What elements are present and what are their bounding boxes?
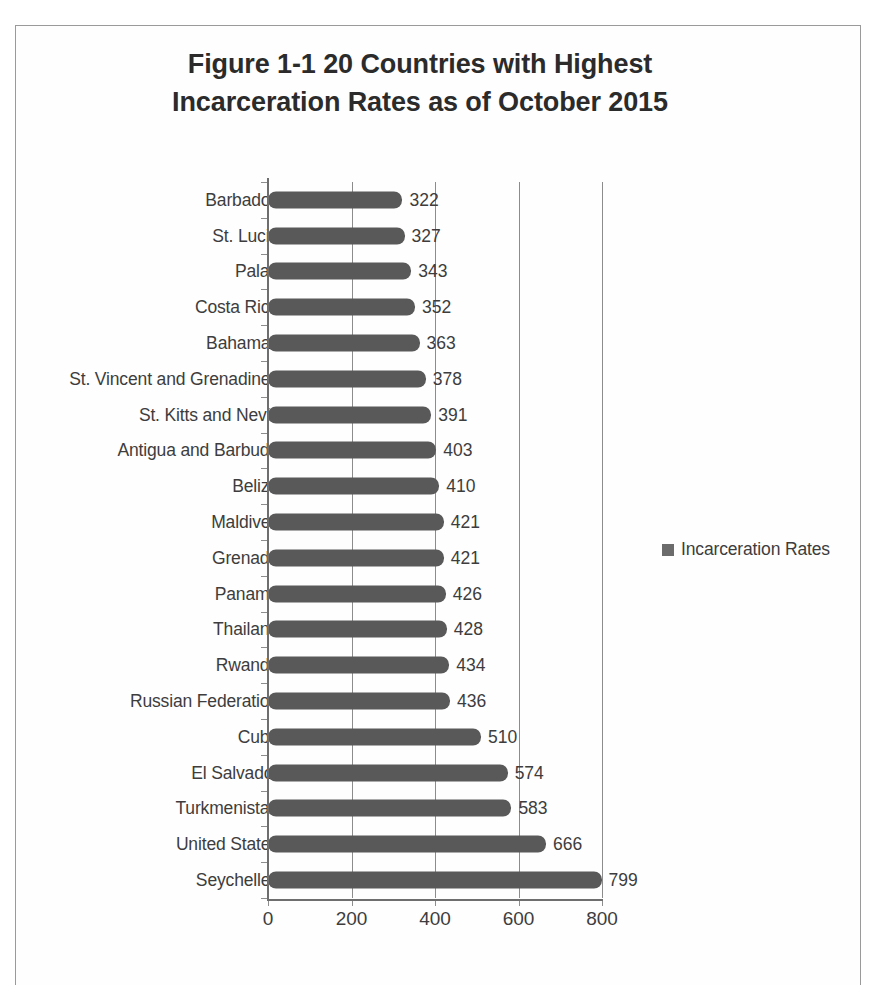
bar[interactable] xyxy=(268,191,402,208)
bar[interactable] xyxy=(268,514,444,531)
bar[interactable] xyxy=(268,621,447,638)
x-tick-400 xyxy=(435,900,436,906)
bar[interactable] xyxy=(268,299,415,316)
category-label: Turkmenistan xyxy=(175,798,279,819)
bar-row: United States666 xyxy=(0,826,877,862)
bar-row: El Salvador574 xyxy=(0,755,877,791)
x-tick-200 xyxy=(352,900,353,906)
y-tick xyxy=(261,755,267,756)
y-tick xyxy=(261,719,267,720)
y-tick xyxy=(261,540,267,541)
bar-row: Thailand428 xyxy=(0,612,877,648)
y-tick xyxy=(261,504,267,505)
y-tick xyxy=(261,576,267,577)
bar[interactable] xyxy=(268,335,420,352)
bar-row: Belize410 xyxy=(0,468,877,504)
bar-value-label: 436 xyxy=(457,691,486,712)
bar[interactable] xyxy=(268,370,426,387)
bar-value-label: 583 xyxy=(518,798,547,819)
bar-value-label: 403 xyxy=(443,440,472,461)
bar-value-label: 434 xyxy=(456,655,485,676)
bar-row: Seychelles799 xyxy=(0,862,877,898)
x-tick-label-800: 800 xyxy=(586,908,618,930)
bar-value-label: 426 xyxy=(453,583,482,604)
y-tick xyxy=(261,182,267,183)
bar-value-label: 352 xyxy=(422,297,451,318)
bar[interactable] xyxy=(268,693,450,710)
bar-row: St. Vincent and Grenadines378 xyxy=(0,361,877,397)
bar-row: Antigua and Barbuda403 xyxy=(0,433,877,469)
bar[interactable] xyxy=(268,227,405,244)
bar-row: Maldives421 xyxy=(0,504,877,540)
y-tick xyxy=(261,218,267,219)
y-tick xyxy=(261,468,267,469)
y-tick xyxy=(261,361,267,362)
bar-row: St. Lucia327 xyxy=(0,218,877,254)
y-tick xyxy=(261,862,267,863)
bar[interactable] xyxy=(268,657,449,674)
bar-value-label: 428 xyxy=(454,619,483,640)
legend-swatch-icon xyxy=(662,544,674,556)
bar-row: Turkmenistan583 xyxy=(0,791,877,827)
bar[interactable] xyxy=(268,764,508,781)
bar[interactable] xyxy=(268,872,602,889)
bar-value-label: 343 xyxy=(418,261,447,282)
bar-row: Rwanda434 xyxy=(0,647,877,683)
x-tick-600 xyxy=(519,900,520,906)
bar[interactable] xyxy=(268,549,444,566)
bar-value-label: 378 xyxy=(433,368,462,389)
bar[interactable] xyxy=(268,728,481,745)
x-tick-label-200: 200 xyxy=(336,908,368,930)
x-axis-line xyxy=(267,899,603,901)
bar-value-label: 327 xyxy=(412,225,441,246)
bar[interactable] xyxy=(268,442,436,459)
bar-value-label: 421 xyxy=(451,512,480,533)
bar[interactable] xyxy=(268,263,411,280)
y-tick xyxy=(261,826,267,827)
category-label: El Salvador xyxy=(191,762,279,783)
y-tick xyxy=(261,898,267,899)
y-tick xyxy=(261,289,267,290)
bar-value-label: 666 xyxy=(553,834,582,855)
bar[interactable] xyxy=(268,585,446,602)
bar-row: Palau343 xyxy=(0,254,877,290)
bar-value-label: 574 xyxy=(515,762,544,783)
bar-row: Costa Rica352 xyxy=(0,289,877,325)
bar-value-label: 799 xyxy=(609,870,638,891)
bar-row: St. Kitts and Nevis391 xyxy=(0,397,877,433)
category-label: St. Kitts and Nevis xyxy=(139,404,279,425)
bar-row: Bahamas363 xyxy=(0,325,877,361)
category-label: St. Vincent and Grenadines xyxy=(69,368,279,389)
chart-legend: Incarceration Rates xyxy=(662,539,830,560)
bar[interactable] xyxy=(268,800,511,817)
category-label: Antigua and Barbuda xyxy=(117,440,279,461)
y-tick xyxy=(261,433,267,434)
y-axis-line xyxy=(267,178,269,900)
y-tick xyxy=(261,683,267,684)
bar-value-label: 391 xyxy=(438,404,467,425)
bar-row: Barbados322 xyxy=(0,182,877,218)
bar-row: Russian Federation436 xyxy=(0,683,877,719)
y-tick xyxy=(261,254,267,255)
bar-value-label: 410 xyxy=(446,476,475,497)
bar-value-label: 510 xyxy=(488,726,517,747)
y-tick xyxy=(261,325,267,326)
bar-row: Cuba510 xyxy=(0,719,877,755)
x-tick-800 xyxy=(602,900,603,906)
category-label: Russian Federation xyxy=(130,691,279,712)
y-tick xyxy=(261,647,267,648)
y-tick xyxy=(261,791,267,792)
bar-row: Panama426 xyxy=(0,576,877,612)
x-tick-label-400: 400 xyxy=(419,908,451,930)
x-tick-label-600: 600 xyxy=(503,908,535,930)
bar[interactable] xyxy=(268,478,439,495)
category-label: United States xyxy=(176,834,279,855)
legend-label: Incarceration Rates xyxy=(681,539,830,560)
y-tick xyxy=(261,397,267,398)
bar-value-label: 421 xyxy=(451,547,480,568)
x-tick-label-0: 0 xyxy=(263,908,274,930)
bar[interactable] xyxy=(268,836,546,853)
bar[interactable] xyxy=(268,406,431,423)
x-tick-0 xyxy=(268,900,269,906)
